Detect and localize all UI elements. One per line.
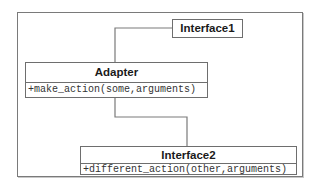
adapter-interface1-connector: [115, 28, 172, 62]
class-name: Adapter: [26, 63, 207, 82]
class-name: Interface1: [173, 20, 242, 37]
class-name: Interface2: [81, 147, 296, 163]
adapter-interface2-connector: [115, 97, 187, 146]
class-method: +make_action(some,arguments): [26, 82, 207, 97]
class-adapter[interactable]: Adapter +make_action(some,arguments): [25, 62, 208, 98]
class-method: +different_action(other,arguments): [81, 163, 296, 174]
class-interface2[interactable]: Interface2 +different_action(other,argum…: [80, 146, 297, 175]
class-interface1[interactable]: Interface1: [172, 19, 243, 38]
